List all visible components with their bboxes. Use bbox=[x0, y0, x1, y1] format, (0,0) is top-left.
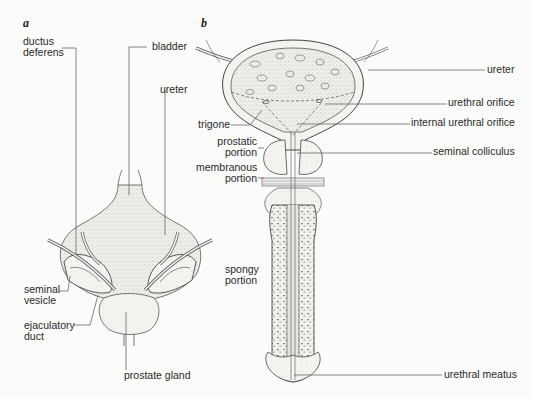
label-trigone: trigone bbox=[198, 119, 230, 130]
panel-b-drawing bbox=[196, 40, 388, 382]
label-line: portion bbox=[210, 147, 257, 158]
label-line: portion bbox=[225, 275, 259, 286]
label-line: duct bbox=[24, 331, 75, 342]
label-membranous-portion: membranous portion bbox=[196, 162, 257, 184]
label-ejaculatory-duct: ejaculatory duct bbox=[24, 320, 75, 342]
label-internal-urethral-orifice: internal urethral orifice bbox=[411, 117, 515, 128]
label-bladder: bladder bbox=[152, 41, 187, 52]
glans bbox=[266, 352, 320, 382]
label-spongy-portion: spongy portion bbox=[225, 264, 259, 286]
label-prostatic-portion: prostatic portion bbox=[210, 136, 257, 158]
anatomy-figure bbox=[0, 0, 533, 398]
label-seminal-vesicle: seminal vesicle bbox=[24, 284, 60, 306]
label-line: vesicle bbox=[24, 295, 60, 306]
label-urethral-meatus: urethral meatus bbox=[444, 369, 517, 380]
label-line: portion bbox=[196, 173, 257, 184]
prostate-shape bbox=[99, 294, 159, 335]
label-seminal-colliculus: seminal colliculus bbox=[433, 146, 515, 157]
label-ductus-deferens: ductus deferens bbox=[23, 36, 64, 58]
label-ureter-a: ureter bbox=[160, 84, 187, 95]
label-urethral-orifice: urethral orifice bbox=[448, 97, 515, 108]
prostate-lobe-left bbox=[264, 140, 287, 175]
label-line: deferens bbox=[23, 47, 64, 58]
panel-letter-a: a bbox=[23, 16, 29, 31]
label-ureter-b: ureter bbox=[487, 64, 514, 75]
panel-letter-b: b bbox=[201, 16, 207, 31]
label-prostate-gland: prostate gland bbox=[124, 370, 191, 381]
prostate-lobe-right bbox=[299, 140, 322, 175]
